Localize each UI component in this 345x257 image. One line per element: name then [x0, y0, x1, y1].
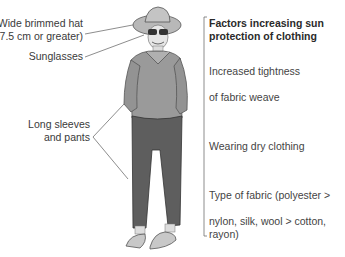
factors-bracket	[204, 17, 207, 236]
label-line: Wide brimmed hat	[0, 17, 83, 30]
label-sunglasses: Sunglasses	[29, 50, 83, 63]
item-line: of fabric weave	[209, 91, 345, 104]
label-line: Sunglasses	[29, 50, 83, 63]
title-line: Factors increasing sun	[209, 17, 345, 30]
label-line: Long sleeves	[28, 118, 90, 131]
label-wide-brimmed-hat: Wide brimmed hat (7.5 cm or greater)	[0, 17, 83, 43]
factor-item-dry: Wearing dry clothing	[209, 127, 345, 166]
label-long-sleeves-pants: Long sleeves and pants	[28, 118, 90, 144]
item-line: Wearing dry clothing	[209, 140, 345, 153]
person-figure	[124, 7, 187, 249]
factor-item-weave: Increased tightness of fabric weave	[209, 52, 345, 117]
label-line: and pants	[28, 131, 90, 144]
title-line: protection of clothing	[209, 30, 345, 43]
factors-list: Factors increasing sun protection of clo…	[209, 17, 345, 257]
item-line: Type of fabric (polyester >	[209, 189, 345, 202]
factor-item-fabric-type: Type of fabric (polyester > nylon, silk,…	[209, 176, 345, 254]
item-line: nylon, silk, wool > cotton, rayon)	[209, 215, 345, 241]
item-line: Increased tightness	[209, 65, 345, 78]
factors-title: Factors increasing sun protection of clo…	[209, 17, 345, 43]
label-line: (7.5 cm or greater)	[0, 30, 83, 43]
